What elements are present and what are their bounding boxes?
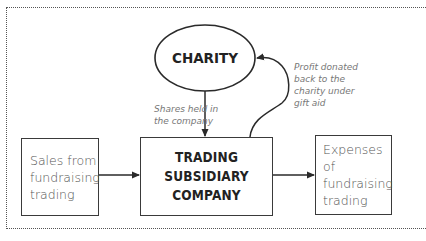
profit-note: Profit donated back to the charity under… bbox=[294, 61, 358, 109]
charity-node-label: CHARITY bbox=[155, 25, 255, 91]
sales-node: Sales from fundraising trading bbox=[21, 138, 99, 216]
shares-note: Shares held in the company bbox=[154, 103, 218, 127]
sales-node-label: Sales from fundraising trading bbox=[30, 152, 100, 203]
subsidiary-node: TRADING SUBSIDIARY COMPANY bbox=[140, 137, 273, 216]
profit-curve-arrow bbox=[250, 57, 289, 137]
expenses-node: Expenses of fundraising trading bbox=[315, 135, 392, 215]
expenses-node-label: Expenses of fundraising trading bbox=[323, 141, 393, 209]
subsidiary-node-label: TRADING SUBSIDIARY COMPANY bbox=[141, 148, 272, 205]
